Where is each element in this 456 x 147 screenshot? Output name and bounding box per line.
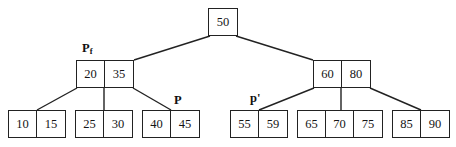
pointer-label-p-prime: p' bbox=[250, 92, 260, 105]
node-key-cell: 20 bbox=[77, 61, 105, 87]
tree-edge bbox=[134, 36, 210, 60]
node-key-cell: 70 bbox=[326, 111, 354, 137]
tree-leaf-node: 2530 bbox=[75, 110, 133, 138]
node-key-cell: 30 bbox=[104, 111, 132, 137]
node-key-cell: 10 bbox=[9, 111, 37, 137]
pointer-label-p: P bbox=[174, 94, 182, 107]
b-plus-tree-diagram: 502035608010152530404555596570758590 PfP… bbox=[0, 0, 456, 147]
node-key-cell: 40 bbox=[143, 111, 171, 137]
node-key-cell: 15 bbox=[37, 111, 65, 137]
pointer-label-base: P bbox=[82, 41, 90, 55]
node-key-cell: 45 bbox=[171, 111, 199, 137]
tree-internal-node: 2035 bbox=[76, 60, 134, 88]
tree-edge bbox=[370, 88, 421, 110]
pointer-label-prime: ' bbox=[257, 91, 260, 105]
node-key-cell: 59 bbox=[259, 111, 287, 137]
tree-leaf-node: 5559 bbox=[230, 110, 288, 138]
tree-leaf-node: 1015 bbox=[8, 110, 66, 138]
tree-edge bbox=[133, 88, 171, 110]
tree-leaf-node: 4045 bbox=[142, 110, 200, 138]
tree-leaf-node: 657075 bbox=[297, 110, 383, 138]
pointer-label-base: P bbox=[174, 93, 182, 107]
tree-edge bbox=[37, 88, 77, 110]
node-key-cell: 65 bbox=[298, 111, 326, 137]
node-key-cell: 55 bbox=[231, 111, 259, 137]
node-key-cell: 35 bbox=[105, 61, 133, 87]
tree-edge bbox=[236, 36, 313, 60]
tree-edge bbox=[259, 88, 314, 110]
node-key-cell: 60 bbox=[314, 61, 342, 87]
node-key-cell: 75 bbox=[354, 111, 382, 137]
node-key-cell: 50 bbox=[209, 9, 237, 35]
tree-root-node: 50 bbox=[208, 8, 238, 36]
pointer-label-base: p bbox=[250, 91, 257, 105]
node-key-cell: 25 bbox=[76, 111, 104, 137]
pointer-label-subscript: f bbox=[90, 46, 93, 56]
node-key-cell: 90 bbox=[421, 111, 449, 137]
node-key-cell: 85 bbox=[393, 111, 421, 137]
tree-internal-node: 6080 bbox=[313, 60, 371, 88]
tree-leaf-node: 8590 bbox=[392, 110, 450, 138]
pointer-label-pf: Pf bbox=[82, 42, 92, 55]
node-key-cell: 80 bbox=[342, 61, 370, 87]
